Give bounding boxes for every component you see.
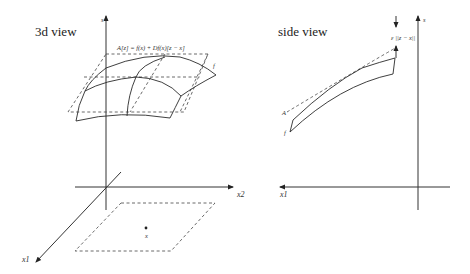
surface-right-edge — [170, 75, 216, 118]
title-side-view: side view — [278, 24, 328, 39]
s-axis-label-side: s — [423, 16, 426, 23]
domain-parallelogram — [75, 203, 215, 251]
title-3d-view: 3d view — [35, 24, 77, 39]
x2-axis-label: x2 — [236, 190, 245, 199]
surface-bottom-edge — [76, 115, 170, 121]
diagram-canvas: 3d view s x2 x1 x A[z] = f(x) + Df(x)[z … — [0, 0, 470, 274]
tangent-equation-label: A[z] = f(x) + Df(x)[z − x] — [116, 44, 185, 52]
tangent-A-label: A — [281, 109, 286, 116]
tangent-plane-rightedge — [180, 54, 208, 112]
surface-left-edge — [76, 68, 106, 121]
x1-axis-label-3d: x1 — [21, 255, 30, 264]
point-x-dot — [145, 227, 148, 230]
surface-f-label-3d: f — [213, 62, 216, 69]
surface-f-label-side: f — [284, 129, 287, 136]
point-x-label: x — [144, 232, 148, 239]
surface-side-profile — [290, 58, 395, 132]
x1-axis-3d — [36, 172, 121, 262]
tangent-plane-crossline — [130, 54, 165, 112]
panel-side-view: side view s x1 A f ε ||z − x|| — [278, 16, 450, 210]
gap-epsilon-label: ε ||z − x|| — [391, 34, 416, 41]
surface-mid-curve — [85, 77, 181, 96]
tangent-line-A — [287, 47, 397, 112]
panel-3d-view: 3d view s x2 x1 x A[z] = f(x) + Df(x)[z … — [21, 16, 245, 264]
s-axis-label-3d: s — [101, 16, 104, 23]
tangent-plane — [68, 54, 208, 112]
x1-axis-label-side: x1 — [279, 190, 288, 199]
